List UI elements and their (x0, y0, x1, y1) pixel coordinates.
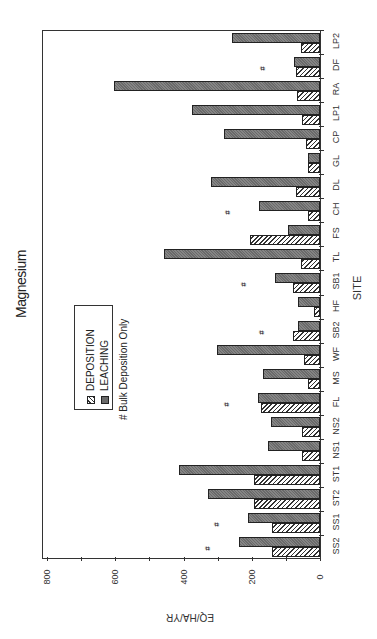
category-tick (319, 367, 324, 368)
category-tick (319, 30, 324, 31)
site-label-wf: WF (331, 342, 341, 366)
legend-item-deposition: DEPOSITION (85, 329, 96, 404)
value-tick (115, 557, 116, 561)
value-tick (252, 557, 253, 561)
bar-leaching-lp2 (232, 33, 320, 43)
bar-deposition-dl (296, 187, 320, 197)
legend-label-leaching: LEACHING (99, 340, 110, 391)
bar-deposition-ms (308, 379, 320, 389)
category-tick (319, 343, 324, 344)
bulk-deposition-marker: # (222, 402, 231, 406)
stipple-swatch-icon (101, 396, 109, 404)
value-tick (320, 557, 321, 561)
category-tick (319, 391, 324, 392)
value-tick (47, 557, 48, 561)
bulk-deposition-marker: # (257, 66, 266, 70)
bulk-deposition-marker: # (212, 523, 221, 527)
category-tick (319, 463, 324, 464)
site-label-ss1: SS1 (331, 510, 341, 534)
bar-leaching-tl (164, 249, 320, 259)
bar-deposition-tl (301, 259, 320, 269)
site-label-cp: CP (331, 125, 341, 149)
bar-deposition-ss2 (272, 547, 320, 557)
bar-deposition-cp (306, 139, 320, 149)
legend-item-leaching: LEACHING (99, 340, 110, 404)
bar-leaching-gl (308, 153, 320, 163)
bar-deposition-fl (261, 403, 320, 413)
bar-leaching-hf (298, 297, 320, 307)
bar-deposition-ns2 (302, 427, 320, 437)
bar-leaching-fs (288, 225, 320, 235)
bar-leaching-lp1 (192, 105, 320, 115)
bar-deposition-ns1 (302, 451, 320, 461)
bar-deposition-df (296, 67, 320, 77)
category-tick (319, 54, 324, 55)
bar-leaching-ch (259, 201, 320, 211)
site-label-hf: HF (331, 294, 341, 318)
site-label-ms: MS (331, 366, 341, 390)
site-label-ch: CH (331, 197, 341, 221)
site-label-dl: DL (331, 173, 341, 197)
hatch-swatch-icon (87, 396, 95, 404)
bar-deposition-sb1 (293, 283, 320, 293)
category-tick (319, 174, 324, 175)
value-tick-label: 0 (315, 565, 325, 589)
bar-deposition-st1 (254, 475, 320, 485)
bar-deposition-lp1 (302, 115, 320, 125)
category-tick (319, 535, 324, 536)
value-tick-label: 200 (247, 565, 257, 589)
category-tick (319, 439, 324, 440)
category-tick (319, 222, 324, 223)
site-label-sb1: SB1 (331, 269, 341, 293)
site-label-ns2: NS2 (331, 414, 341, 438)
site-label-gl: GL (331, 149, 341, 173)
site-label-ra: RA (331, 77, 341, 101)
category-tick (319, 150, 324, 151)
bar-deposition-wf (304, 355, 320, 365)
category-tick (319, 102, 324, 103)
bar-leaching-ra (114, 81, 320, 91)
bar-deposition-st2 (254, 499, 320, 509)
category-tick (319, 78, 324, 79)
bar-leaching-ss1 (248, 513, 320, 523)
value-tick (218, 557, 219, 561)
bar-deposition-ch (308, 211, 320, 221)
site-label-st2: ST2 (331, 486, 341, 510)
category-tick (319, 295, 324, 296)
category-tick (319, 126, 324, 127)
category-tick (319, 415, 324, 416)
value-axis-title: EQ/HA/YR (140, 612, 240, 623)
bar-deposition-sb2 (293, 331, 320, 341)
bar-leaching-wf (217, 345, 320, 355)
value-tick (184, 557, 185, 561)
value-tick-label: 800 (42, 565, 52, 589)
site-label-ss2: SS2 (331, 534, 341, 558)
value-tick-label: 400 (179, 565, 189, 589)
chart-title: Magnesium (13, 249, 29, 319)
site-label-st1: ST1 (331, 462, 341, 486)
bulk-deposition-marker: # (222, 210, 231, 214)
site-label-lp2: LP2 (331, 29, 341, 53)
site-label-ns1: NS1 (331, 438, 341, 462)
bar-leaching-st2 (208, 489, 320, 499)
value-tick (286, 557, 287, 561)
category-tick (319, 270, 324, 271)
bar-deposition-ss1 (272, 523, 320, 533)
bar-deposition-lp2 (301, 43, 320, 53)
category-axis-title: SITE (351, 276, 363, 300)
bar-leaching-st1 (179, 465, 320, 475)
legend-label-deposition: DEPOSITION (85, 329, 96, 391)
site-label-df: DF (331, 53, 341, 77)
bar-deposition-fs (250, 235, 320, 245)
site-label-sb2: SB2 (331, 318, 341, 342)
site-label-fs: FS (331, 221, 341, 245)
bar-leaching-sb1 (275, 273, 320, 283)
bulk-deposition-marker: # (239, 282, 248, 286)
site-label-lp1: LP1 (331, 101, 341, 125)
bar-leaching-cp (224, 129, 320, 139)
bar-leaching-dl (211, 177, 320, 187)
bar-leaching-ns1 (268, 441, 320, 451)
category-tick (319, 511, 324, 512)
category-tick (319, 319, 324, 320)
bar-leaching-df (294, 57, 320, 67)
